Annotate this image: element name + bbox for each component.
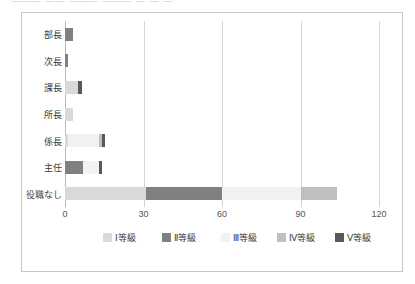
- legend-label: Ⅰ等級: [115, 231, 136, 244]
- legend-label: Ⅱ等級: [174, 231, 196, 244]
- bar-segment: [65, 28, 73, 41]
- legend-item[interactable]: Ⅲ等級: [221, 231, 257, 244]
- x-axis-tick-label: 0: [62, 209, 67, 219]
- legend-item[interactable]: Ⅴ等級: [335, 231, 371, 244]
- bar-segment: [83, 161, 99, 174]
- y-axis-label: 部長: [44, 28, 62, 41]
- table-row: [65, 134, 379, 147]
- bar-segment: [65, 187, 146, 200]
- bar-segment: [222, 187, 301, 200]
- table-row: [65, 187, 379, 200]
- y-axis-label: 課長: [44, 81, 62, 94]
- bar-segment: [301, 187, 338, 200]
- x-axis-tick-label: 30: [138, 209, 148, 219]
- legend-swatch-icon: [335, 233, 344, 242]
- x-axis-tick-label: 120: [371, 209, 386, 219]
- y-axis-label: 所長: [44, 108, 62, 121]
- table-row: [65, 54, 379, 67]
- legend-label: Ⅲ等級: [233, 231, 257, 244]
- table-row: [65, 81, 379, 94]
- legend-swatch-icon: [103, 233, 112, 242]
- x-axis-labels: 0306090120: [65, 209, 379, 223]
- bar-segment: [99, 161, 102, 174]
- y-axis-label: 役職なし: [26, 187, 62, 200]
- legend-swatch-icon: [162, 233, 171, 242]
- y-axis-label: 次長: [44, 54, 62, 67]
- legend-swatch-icon: [277, 233, 286, 242]
- bar-segment: [102, 134, 105, 147]
- legend-swatch-icon: [221, 233, 230, 242]
- bar-segment: [65, 81, 78, 94]
- bar-segment: [68, 134, 99, 147]
- bar-segment: [65, 161, 83, 174]
- table-row: [65, 28, 379, 41]
- y-axis-labels: 部長次長課長所長係長主任役職なし: [22, 21, 62, 207]
- legend-item[interactable]: Ⅳ等級: [277, 231, 315, 244]
- y-axis-label: 係長: [44, 134, 62, 147]
- gridline-120: [379, 21, 380, 207]
- bar-segment: [65, 54, 68, 67]
- bar-segment: [65, 108, 73, 121]
- legend-item[interactable]: Ⅰ等級: [103, 231, 136, 244]
- table-row: [65, 161, 379, 174]
- legend-item[interactable]: Ⅱ等級: [162, 231, 196, 244]
- x-axis-tick-label: 90: [295, 209, 305, 219]
- bar-segment: [78, 81, 82, 94]
- cropped-text-strip: ――― ―― ――― ――― ― ― ―: [0, 0, 415, 10]
- y-axis-label: 主任: [44, 161, 62, 174]
- legend-label: Ⅴ等級: [347, 231, 371, 244]
- legend-label: Ⅳ等級: [289, 231, 315, 244]
- x-axis-tick-label: 60: [217, 209, 227, 219]
- plot-area: [65, 21, 379, 207]
- cropped-caption-text: ――― ―― ――― ――― ― ― ―: [12, 0, 173, 6]
- bar-segment: [146, 187, 222, 200]
- chart-frame: 部長次長課長所長係長主任役職なし 0306090120 Ⅰ等級Ⅱ等級Ⅲ等級Ⅳ等級…: [21, 12, 403, 272]
- chart-legend: Ⅰ等級Ⅱ等級Ⅲ等級Ⅳ等級Ⅴ等級: [65, 231, 395, 247]
- table-row: [65, 108, 379, 121]
